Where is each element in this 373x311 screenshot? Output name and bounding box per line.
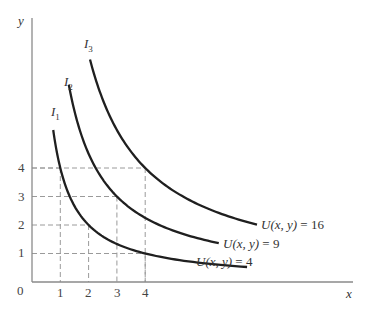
y-tick-1: 1 <box>18 245 25 260</box>
indifference-curve-i2 <box>69 85 219 243</box>
origin-label: 0 <box>17 283 24 298</box>
x-tick-1: 1 <box>57 285 64 300</box>
x-axis-label: x <box>345 286 352 301</box>
y-tick-2: 2 <box>18 217 25 232</box>
curve-label-u16: U(x, y) = 16 <box>261 217 324 232</box>
curve-name-i2: I2 <box>63 74 73 92</box>
y-axis-label: y <box>16 13 24 28</box>
x-tick-3: 3 <box>114 285 121 300</box>
indifference-curves-chart: y x 0 1 2 3 4 1 2 3 4 I1 I2 I3 U(x, y) =… <box>0 0 373 311</box>
curve-name-i3: I3 <box>83 36 93 54</box>
y-tick-3: 3 <box>18 189 25 204</box>
curve-name-i1: I1 <box>50 104 60 122</box>
curve-label-u4: U(x, y) = 4 <box>196 254 253 269</box>
x-tick-2: 2 <box>85 285 92 300</box>
x-tick-4: 4 <box>142 285 149 300</box>
y-tick-4: 4 <box>18 160 25 175</box>
curve-label-u9: U(x, y) = 9 <box>223 236 279 251</box>
indifference-curve-i1 <box>53 130 247 267</box>
indifference-curve-i3 <box>90 60 257 225</box>
